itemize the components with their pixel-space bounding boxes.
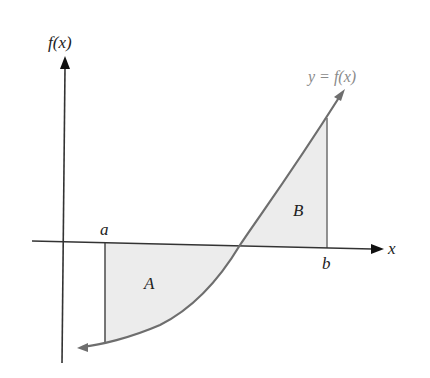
region-a-label: A [143,274,155,293]
region-b-label: B [293,201,304,220]
curve-label: y = f(x) [306,68,356,86]
x-axis-label: x [387,239,396,258]
y-axis-arrow-icon [60,56,70,69]
region-a-shading [105,243,240,343]
curve-start-arrow-icon [77,343,88,352]
y-axis [62,68,65,363]
y-axis-label: f(x) [48,33,72,52]
curve-end-arrow-icon [334,89,345,101]
lower-limit-label: a [100,220,109,239]
upper-limit-label: b [322,254,331,273]
x-axis-arrow-icon [371,244,384,254]
integral-diagram: f(x) x y = f(x) a b A B [0,0,430,378]
